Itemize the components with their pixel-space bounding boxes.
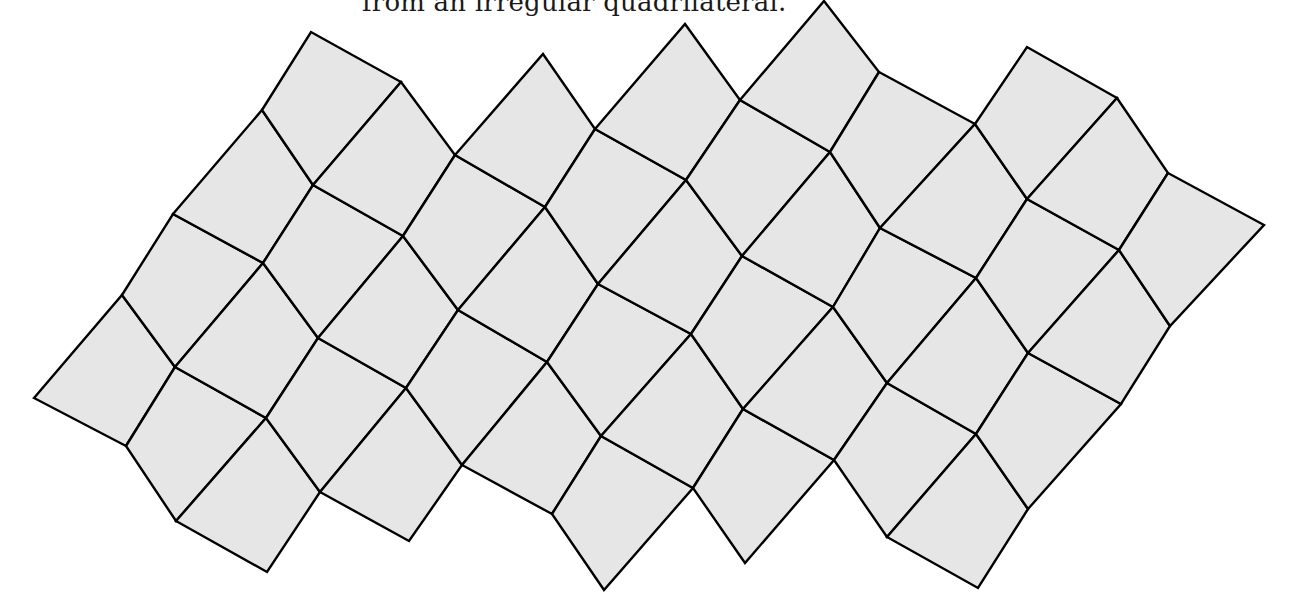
tiling-cells (34, 1, 1264, 590)
quadrilateral-tiling (0, 0, 1289, 604)
